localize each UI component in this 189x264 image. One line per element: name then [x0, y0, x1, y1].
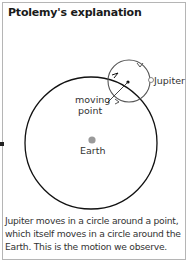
deferent-arrow-icon — [112, 73, 118, 78]
moving-point-label-line1: moving — [75, 94, 110, 105]
diagram-caption: Jupiter moves in a circle around a point… — [5, 214, 187, 253]
jupiter-planet — [149, 78, 154, 83]
earth-dot — [88, 136, 95, 143]
jupiter-label: Jupiter — [153, 75, 185, 86]
moving-point-label-line2: point — [78, 105, 103, 116]
earth-label: Earth — [80, 145, 105, 156]
